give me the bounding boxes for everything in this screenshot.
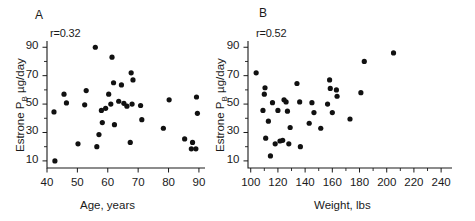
figure-root: A r=0.32 Estrone PB µg/day Age, years 10…	[0, 0, 475, 221]
data-point	[262, 85, 267, 90]
data-point	[268, 153, 273, 158]
data-point	[347, 116, 352, 121]
data-point	[94, 144, 99, 149]
data-point	[193, 146, 198, 151]
scatter-panel-a: A r=0.32 Estrone PB µg/day Age, years 10…	[0, 0, 236, 221]
data-point	[334, 94, 339, 99]
data-point	[270, 100, 275, 105]
data-point	[139, 117, 144, 122]
data-point	[103, 106, 108, 111]
data-point	[119, 82, 124, 87]
data-point	[288, 125, 293, 130]
data-point	[362, 59, 367, 64]
data-point	[283, 99, 288, 104]
data-point	[280, 138, 285, 143]
data-point	[391, 50, 396, 55]
data-point	[112, 122, 117, 127]
data-point	[182, 136, 187, 141]
data-point	[82, 102, 87, 107]
y-tick-label: 70	[202, 68, 240, 80]
data-point	[93, 45, 98, 50]
data-point	[52, 158, 57, 163]
data-point	[84, 88, 89, 93]
data-point	[109, 55, 114, 60]
data-point	[286, 141, 291, 146]
data-point	[307, 121, 312, 126]
data-point	[194, 94, 199, 99]
x-tick-label: 90	[179, 176, 219, 188]
y-tick-label: 50	[202, 96, 240, 108]
axis-lines	[248, 41, 452, 168]
y-tick-label: 50	[1, 96, 39, 108]
data-point	[285, 109, 290, 114]
data-point	[330, 110, 335, 115]
data-point	[129, 70, 134, 75]
y-tick-label: 10	[202, 153, 240, 165]
y-tick-label: 10	[1, 153, 39, 165]
data-point	[309, 100, 314, 105]
data-point	[260, 108, 265, 113]
plot-canvas-a	[0, 0, 236, 221]
y-tick-label: 30	[202, 124, 240, 136]
data-point	[334, 87, 339, 92]
data-point	[297, 99, 302, 104]
data-point	[100, 120, 105, 125]
data-point	[325, 101, 330, 106]
data-point	[116, 99, 121, 104]
plot-canvas-b	[236, 0, 475, 221]
data-point	[328, 86, 333, 91]
data-point	[190, 140, 195, 145]
data-point	[61, 92, 66, 97]
data-point	[275, 108, 280, 113]
data-point	[298, 144, 303, 149]
data-point	[327, 77, 332, 82]
data-point	[111, 80, 116, 85]
x-tick-label: 240	[421, 176, 461, 188]
y-tick-label: 90	[202, 39, 240, 51]
data-point	[294, 81, 299, 86]
data-point	[189, 146, 194, 151]
y-tick-label: 90	[1, 39, 39, 51]
data-point	[108, 101, 113, 106]
data-point	[262, 92, 267, 97]
data-point	[254, 70, 259, 75]
y-tick-label: 30	[1, 124, 39, 136]
data-point	[273, 141, 278, 146]
data-point	[266, 119, 271, 124]
data-point	[263, 136, 268, 141]
data-point	[167, 97, 172, 102]
data-point	[138, 103, 143, 108]
data-point	[161, 126, 166, 131]
data-point	[311, 110, 316, 115]
data-point	[318, 126, 323, 131]
data-point	[51, 109, 56, 114]
data-point	[195, 111, 200, 116]
data-point	[128, 140, 133, 145]
data-point	[130, 77, 135, 82]
data-point	[358, 90, 363, 95]
y-tick-label: 70	[1, 68, 39, 80]
data-point	[106, 92, 111, 97]
data-point	[75, 141, 80, 146]
scatter-panel-b: B r=0.52 Estrone PB µg/day Weight, lbs 1…	[236, 0, 475, 221]
data-point	[96, 132, 101, 137]
data-point	[64, 100, 69, 105]
data-point	[124, 104, 129, 109]
data-point	[129, 101, 134, 106]
